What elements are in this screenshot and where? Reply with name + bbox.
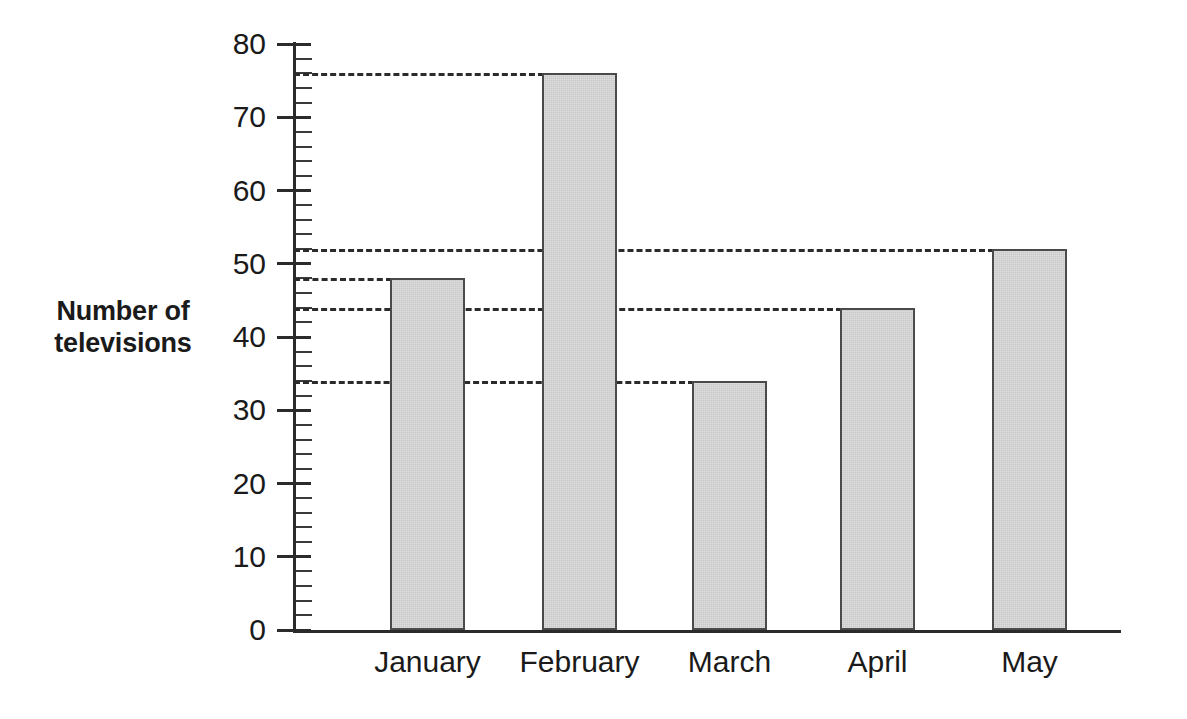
y-tick-minor [296,351,312,353]
y-tick-minor [296,175,312,177]
y-tick-minor [296,321,312,323]
y-tick-label: 80 [200,29,266,59]
y-tick-major [277,189,311,192]
y-tick-minor [296,585,312,587]
y-tick-minor [296,131,312,133]
y-tick-minor [296,497,312,499]
y-tick-minor [296,526,312,528]
y-tick-minor [296,102,312,104]
y-tick-minor [296,365,312,367]
y-tick-label: 40 [200,322,266,352]
bar-april [840,308,915,630]
x-axis-label-may: May [930,645,1130,678]
y-tick-minor [296,146,312,148]
reference-line-34 [294,381,694,384]
y-tick-label: 10 [200,542,266,572]
y-tick-minor [296,600,312,602]
y-tick-minor [296,570,312,572]
y-axis-title-line-1: Number of [18,296,228,328]
y-axis-title: Number of televisions [18,296,228,360]
bar-february [542,73,617,630]
y-tick-minor [296,292,312,294]
y-axis-title-line-2: televisions [18,328,228,360]
reference-line-48 [294,278,392,281]
reference-line-76 [294,73,544,76]
y-tick-label: 70 [200,102,266,132]
y-tick-label: 20 [200,469,266,499]
y-tick-minor [296,424,312,426]
x-axis-line [293,630,1121,633]
y-tick-minor [296,160,312,162]
y-tick-minor [296,439,312,441]
y-tick-major [277,43,311,46]
y-tick-major [277,262,311,265]
y-tick-minor [296,87,312,89]
y-tick-minor [296,614,312,616]
bar-january [390,278,465,630]
y-tick-label: 30 [200,395,266,425]
y-tick-major [277,482,311,485]
y-tick-minor [296,219,312,221]
y-tick-minor [296,541,312,543]
bar-chart: Number of televisions 01020304050607080 … [0,0,1187,719]
y-tick-label: 0 [200,615,266,645]
y-tick-minor [296,58,312,60]
y-tick-minor [296,233,312,235]
y-tick-minor [296,512,312,514]
y-tick-minor [296,395,312,397]
y-tick-label: 50 [200,249,266,279]
y-tick-major [277,336,311,339]
bar-march [692,381,767,630]
y-tick-minor [296,453,312,455]
y-tick-major [277,409,311,412]
y-tick-minor [296,204,312,206]
bar-may [992,249,1067,630]
reference-line-52 [294,249,994,252]
y-tick-label: 60 [200,176,266,206]
y-tick-major [277,555,311,558]
y-tick-major [277,629,311,632]
y-tick-major [277,116,311,119]
y-tick-minor [296,468,312,470]
